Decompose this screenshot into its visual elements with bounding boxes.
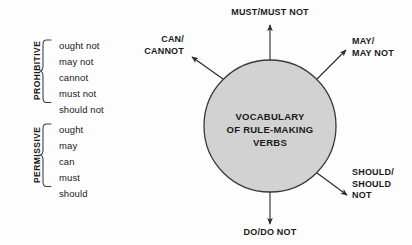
core-label-line-1: VOCABULARY bbox=[195, 110, 345, 123]
spoke-arrow-can bbox=[192, 57, 223, 79]
spoke-label-should-line-2: SHOULD bbox=[352, 179, 394, 191]
verb-item-permissive-1: ought bbox=[59, 125, 83, 135]
verb-item-prohibitive-4: must not bbox=[59, 89, 96, 99]
verb-item-permissive-4: must bbox=[59, 173, 80, 183]
spoke-label-may-line-2: MAY NOT bbox=[352, 48, 394, 60]
spoke-label-may-line-1: MAY/ bbox=[352, 36, 394, 48]
spoke-label-can-line-2: CANNOT bbox=[98, 46, 184, 58]
group-label-prohibitive: PROHIBITIVE bbox=[32, 41, 42, 100]
spoke-label-must: MUST/MUST NOT bbox=[215, 7, 325, 19]
spoke-label-must-line-1: MUST/MUST NOT bbox=[215, 7, 325, 19]
spoke-arrow-may bbox=[317, 50, 346, 79]
spoke-label-should-line-3: NOT bbox=[352, 190, 394, 202]
verb-item-prohibitive-3: cannot bbox=[59, 73, 88, 83]
spoke-label-do-line-1: DO/DO NOT bbox=[222, 227, 318, 239]
verb-item-permissive-2: may bbox=[59, 141, 77, 151]
spoke-label-can: CAN/ CANNOT bbox=[98, 34, 184, 57]
spoke-arrow-should bbox=[317, 173, 347, 195]
rule-making-verbs-diagram: VOCABULARY OF RULE-MAKING VERBS PROHIBIT… bbox=[0, 0, 412, 245]
spoke-label-should: SHOULD/ SHOULD NOT bbox=[352, 167, 394, 202]
verb-item-prohibitive-2: may not bbox=[59, 57, 94, 67]
group-label-permissive: PERMISSIVE bbox=[32, 127, 42, 183]
spoke-label-do: DO/DO NOT bbox=[222, 227, 318, 239]
verb-item-permissive-3: can bbox=[59, 157, 75, 167]
spoke-label-can-line-1: CAN/ bbox=[98, 34, 184, 46]
spoke-label-should-line-1: SHOULD/ bbox=[352, 167, 394, 179]
core-label-line-3: VERBS bbox=[195, 136, 345, 149]
core-label-line-2: OF RULE-MAKING bbox=[195, 123, 345, 136]
verb-item-prohibitive-5: should not bbox=[59, 105, 104, 115]
verb-item-prohibitive-1: ought not bbox=[59, 41, 100, 51]
spoke-label-may: MAY/ MAY NOT bbox=[352, 36, 394, 59]
verb-item-permissive-5: should bbox=[59, 189, 88, 199]
